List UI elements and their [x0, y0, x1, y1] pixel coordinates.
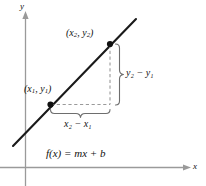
- point-1-marker: [47, 101, 53, 107]
- function-equation: f(x) = mx + b: [46, 148, 105, 159]
- point-2-y-subscript: 2: [87, 31, 90, 38]
- rise-brace: [116, 44, 124, 105]
- x-axis: [0, 164, 191, 170]
- point-1-y-subscript: 1: [45, 87, 48, 94]
- y-axis: [22, 11, 28, 186]
- linear-function-figure: y x (x2, y2) (x1, y1) y₂ − y₁ x₂ − x₁ f(…: [0, 0, 206, 186]
- run-brace: [51, 110, 111, 118]
- rise-label: y₂ − y₁: [126, 68, 154, 78]
- point-2-label: (x2, y2): [66, 28, 93, 39]
- y-axis-label: y: [20, 2, 24, 11]
- point-2-marker: [107, 41, 113, 47]
- x-axis-label: x: [193, 162, 197, 171]
- point-2-x-subscript: 2: [74, 31, 77, 38]
- point-1-label: (x1, y1): [24, 84, 51, 95]
- run-label: x₂ − x₁: [64, 119, 92, 129]
- point-1-x-subscript: 1: [32, 87, 35, 94]
